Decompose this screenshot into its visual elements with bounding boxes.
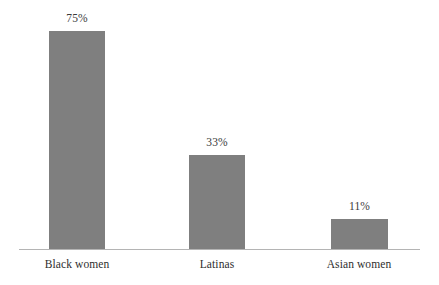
bar-1[interactable] [49,31,105,250]
bar-group-2: 33% [189,0,245,285]
bar-value-label-1: 75% [49,13,105,25]
bar-value-label-3: 11% [331,201,388,213]
bar-chart: 75% 33% 11% Black women Latinas Asian wo… [0,0,439,285]
x-axis-tick-label-3: Asian women [307,259,411,271]
bar-3[interactable] [331,219,388,250]
bar-group-3: 11% [331,0,388,285]
x-axis-line [19,249,420,250]
x-axis-tick-label-1: Black women [25,259,129,271]
bar-2[interactable] [189,155,245,250]
bar-value-label-2: 33% [189,137,245,149]
x-axis-tick-label-2: Latinas [165,259,269,271]
plot-area: 75% 33% 11% Black women Latinas Asian wo… [0,0,439,285]
bar-group-1: 75% [49,0,105,285]
